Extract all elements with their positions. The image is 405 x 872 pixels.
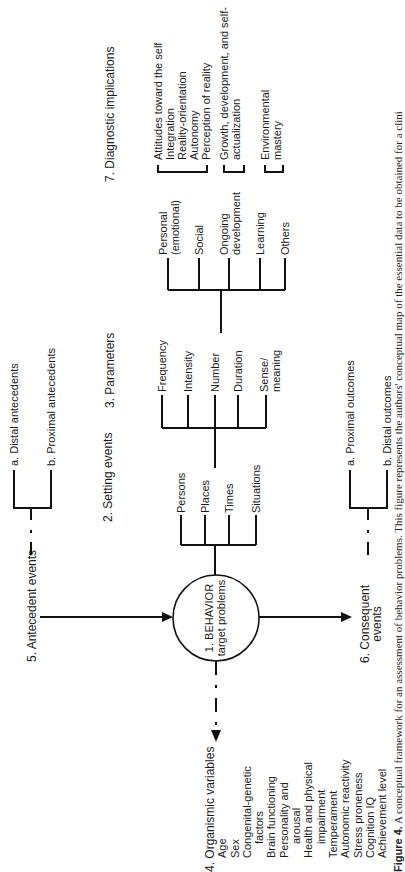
parameters-title: 3. Parameters (104, 333, 116, 408)
antecedent-title: 5. Antecedent events (26, 550, 38, 662)
param-frequency: Frequency (156, 340, 168, 392)
domain-others: Others (279, 222, 291, 255)
antecedent-proximal: b. Proximal antecedents (45, 348, 57, 466)
domain-social: Social (193, 225, 205, 255)
item-actualization: actualization (230, 7, 242, 160)
domain-learning: Learning (254, 212, 266, 255)
setting-places: Places (199, 480, 211, 513)
organismic-title: 4. Organismic variables (204, 747, 216, 872)
param-duration: Duration (232, 350, 244, 392)
item-environmental: Environmental (259, 90, 271, 160)
organismic-variables: 4. Organismic variables Age Sex Congenit… (204, 747, 388, 872)
diagnostic-group-self: Attitudes toward the self Integration Re… (152, 43, 212, 160)
diagnostic-group-mastery: Environmental mastery (259, 90, 283, 160)
setting-times: Times (223, 483, 235, 513)
item-reality-orientation: Reality-orientation (176, 43, 188, 160)
caption-label: Figure 4. (392, 826, 404, 872)
antecedent-distal: a. Distal antecedents (8, 363, 20, 466)
behavior-label: 1. BEHAVIORtarget problems (203, 574, 227, 662)
consequent-proximal: a. Proximal outcomes (344, 360, 356, 466)
setting-events-title: 2. Setting events (102, 433, 114, 522)
domain-personal: Personal(emotional) (157, 200, 181, 255)
diagnostic-group-growth: Growth, development, and self- actualiza… (218, 7, 242, 160)
caption-text: A conceptual framework for an assessment… (392, 111, 404, 824)
figure-caption: Figure 4. A conceptual framework for an … (392, 111, 404, 872)
item-growth: Growth, development, and self- (218, 7, 230, 160)
item-mastery: mastery (271, 90, 283, 160)
setting-situations: Situations (250, 465, 262, 513)
item-integration: Integration (164, 43, 176, 160)
setting-persons: Persons (175, 473, 187, 513)
item-attitudes: Attitudes toward the self (152, 43, 164, 160)
consequent-title: 6. Consequentevents (359, 585, 383, 663)
param-sense-meaning: Sense/meaning (258, 350, 282, 392)
param-number: Number (209, 353, 221, 392)
item-autonomy: Autonomy (188, 43, 200, 160)
diagnostic-title: 7. Diagnostic implications (104, 47, 116, 182)
param-intensity: Intensity (182, 351, 194, 392)
item-perception: Perception of reality (200, 43, 212, 160)
domain-ongoing: Ongoingdevelopment (218, 192, 242, 255)
